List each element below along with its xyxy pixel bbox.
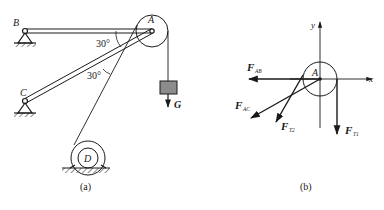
pin-support-c [14,99,36,118]
caption-b: (b) [300,181,312,193]
svg-text:F: F [234,99,243,111]
label-b: B [13,17,19,28]
label-x-axis: x [368,74,373,84]
pin-support-b [14,29,36,48]
svg-text:T1: T1 [353,131,359,137]
angle-arc-bottom [103,69,110,74]
weight-box [160,81,177,94]
diagram-canvas: B A C D G 30° 30° (a) A y x F AB [0,0,384,210]
svg-text:AC: AC [242,106,250,112]
label-c: C [20,87,27,98]
label-a: A [147,14,155,25]
force-f-t2 [276,75,303,122]
svg-text:AB: AB [254,68,262,74]
label-a-fbd: A [311,67,319,78]
bar-ac [24,29,153,103]
figure-b: A y x F AB F AC F T2 F T1 (b) [234,20,373,193]
angle-label-top: 30° [96,38,110,49]
svg-text:T2: T2 [289,127,295,133]
svg-text:F: F [280,120,289,132]
label-y-axis: y [310,20,315,30]
svg-text:F: F [246,61,255,73]
figure-a: B A C D G 30° 30° (a) [13,14,182,193]
label-g: G [174,99,182,110]
caption-a: (a) [80,181,91,193]
label-d: D [83,153,92,164]
svg-text:F: F [344,124,353,136]
label-f-ab: F AB [246,61,262,74]
angle-label-bottom: 30° [87,70,101,81]
label-f-t2: F T2 [280,120,295,133]
label-f-ac: F AC [234,99,250,112]
label-f-t1: F T1 [344,124,359,137]
force-f-ac [251,79,320,118]
